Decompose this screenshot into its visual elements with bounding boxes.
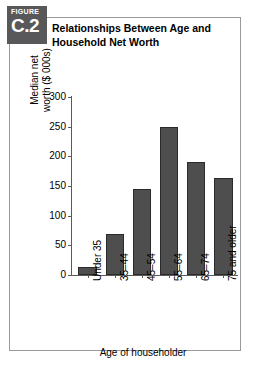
x-axis-category-label: 45–54 — [146, 253, 157, 281]
figure-container: FIGURE C.2 Relationships Between Age and… — [0, 0, 253, 365]
y-axis-tick-label: 150 — [49, 180, 66, 191]
x-axis-tick-mark — [196, 275, 197, 278]
bar-chart: Median net worth ($ 000s) 05010015020025… — [9, 17, 241, 351]
y-axis-tick-label: 250 — [49, 121, 66, 132]
x-axis-tick-mark — [223, 275, 224, 278]
x-axis-tick-mark — [169, 275, 170, 278]
y-axis-tick-label: 50 — [55, 239, 66, 250]
y-axis-tick-label: 100 — [49, 210, 66, 221]
x-axis-category-label: 65–74 — [200, 253, 211, 281]
x-axis-tick-mark — [115, 275, 116, 278]
figure-badge-number: C.2 — [11, 15, 47, 36]
x-axis-category-label: 35–44 — [119, 253, 130, 281]
y-axis-tick-label: 300 — [49, 91, 66, 102]
x-axis-tick-mark — [142, 275, 143, 278]
x-axis-category-label: Under 35 — [92, 240, 103, 281]
x-axis-category-label: 55–64 — [173, 253, 184, 281]
y-axis-tick-label: 200 — [49, 150, 66, 161]
x-axis-category-label: 75 and older — [227, 225, 238, 281]
y-axis-tick-label: 0 — [60, 269, 66, 280]
x-axis-title: Age of householder — [73, 347, 213, 358]
y-axis-tick-mark — [68, 275, 72, 276]
x-axis-tick-mark — [88, 275, 89, 278]
figure-badge: FIGURE C.2 — [7, 6, 47, 44]
